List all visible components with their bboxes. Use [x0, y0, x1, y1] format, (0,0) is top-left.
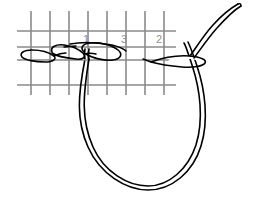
thread-tail-inner	[194, 6, 241, 58]
thread-tail-outer	[190, 4, 238, 56]
fabric-grid: 1 3 2	[17, 11, 176, 95]
chain-connector-a	[54, 53, 66, 56]
thread-loop-outer	[79, 42, 205, 190]
stitch-tick-mark	[64, 46, 76, 47]
figure-root: 1 3 2	[0, 0, 257, 207]
chain-connector-b	[84, 53, 96, 54]
grid-label-3: 3	[121, 33, 127, 45]
grid-vertical-lines	[31, 11, 164, 95]
thread-loop-inner	[84, 43, 200, 186]
grid-label-2: 2	[156, 33, 162, 45]
chain-stitch-diagram: 1 3 2	[0, 0, 257, 207]
thread-tail-tip	[238, 4, 241, 6]
